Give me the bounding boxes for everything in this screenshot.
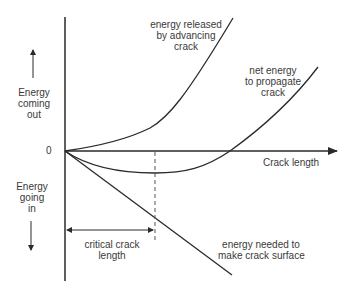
critical-crack-length-label-line-1: critical crack xyxy=(80,239,144,250)
net-energy-label-line-2: to propagate xyxy=(240,76,306,87)
y-up-label: Energy coming out xyxy=(16,87,52,120)
energy-released-label-line-3: crack xyxy=(146,41,226,52)
y-down-label: Energy going in xyxy=(14,181,50,214)
energy-released-label: energy released by advancing crack xyxy=(146,19,226,52)
energy-needed-label: energy needed to make crack surface xyxy=(218,239,304,261)
y-down-label-line-3: in xyxy=(14,203,50,214)
net-energy-label-line-1: net energy xyxy=(240,65,306,76)
energy-released-label-line-2: by advancing xyxy=(146,30,226,41)
y-up-label-line-3: out xyxy=(16,109,52,120)
critical-crack-length-label: critical crack length xyxy=(80,239,144,261)
origin-label: 0 xyxy=(46,145,52,156)
critical-crack-length-label-line-2: length xyxy=(80,250,144,261)
energy-needed-label-line-2: make crack surface xyxy=(218,250,304,261)
y-up-label-line-2: coming xyxy=(16,98,52,109)
y-down-label-line-1: Energy xyxy=(14,181,50,192)
energy-released-label-line-1: energy released xyxy=(146,19,226,30)
x-axis-label: Crack length xyxy=(263,157,319,168)
net-energy-label: net energy to propagate crack xyxy=(240,65,306,98)
y-up-label-line-1: Energy xyxy=(16,87,52,98)
y-down-label-line-2: going xyxy=(14,192,50,203)
energy-needed-label-line-1: energy needed to xyxy=(218,239,304,250)
net-energy-label-line-3: crack xyxy=(240,87,306,98)
